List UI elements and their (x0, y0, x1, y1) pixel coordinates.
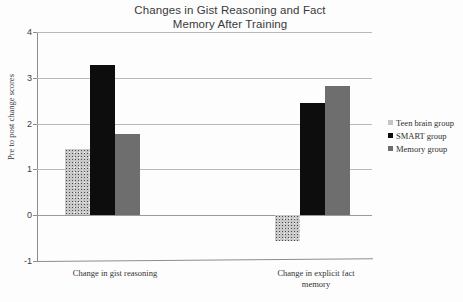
gridline-0 (37, 215, 372, 216)
x-axis-label-gist-reasoning: Change in gist reasoning (40, 268, 190, 279)
y-tick-label-4: 4 (10, 27, 32, 37)
chart-figure: Changes in Gist Reasoning and Fact Memor… (0, 0, 463, 302)
x-axis-line (37, 258, 373, 262)
legend-swatch-icon (388, 120, 393, 125)
gridline-3 (37, 78, 372, 79)
bar-teen-brain-group-1 (275, 215, 300, 241)
y-tick-label--1: -1 (10, 256, 32, 266)
y-axis-line (37, 32, 38, 261)
legend-swatch-icon (388, 146, 393, 151)
y-tick-label-0: 0 (10, 210, 32, 220)
y-tick-0 (33, 215, 37, 216)
legend-label: Memory group (396, 144, 447, 154)
legend-label: SMART group (396, 131, 447, 141)
gridline-4 (37, 32, 372, 33)
y-tick-4 (33, 32, 37, 33)
x-axis-label-line-1: Change in explicit fact (252, 268, 380, 279)
bar-smart-group-0 (90, 65, 115, 215)
legend-item-teen-brain-group: Teen brain group (388, 116, 463, 129)
y-tick-label-3: 3 (10, 73, 32, 83)
x-axis-label-line-2: memory (252, 279, 380, 290)
chart-title-line-2: Memory After Training (95, 17, 365, 31)
y-tick-label-2: 2 (10, 119, 32, 129)
y-tick-label-1: 1 (10, 164, 32, 174)
y-tick-2 (33, 124, 37, 125)
y-axis-tick-labels: 43210-1 (5, 0, 32, 302)
x-axis-label-explicit-fact-memory: Change in explicit fact memory (252, 268, 380, 290)
bar-memory-group-1 (325, 86, 350, 216)
x-axis-label-line-1: Change in gist reasoning (40, 268, 190, 279)
y-tick-3 (33, 78, 37, 79)
chart-title: Changes in Gist Reasoning and Fact Memor… (95, 3, 365, 31)
chart-title-line-1: Changes in Gist Reasoning and Fact (95, 3, 365, 17)
bar-smart-group-1 (300, 103, 325, 215)
legend-swatch-icon (388, 133, 393, 138)
legend-item-memory-group: Memory group (388, 142, 463, 155)
chart-legend: Teen brain group SMART group Memory grou… (388, 116, 463, 155)
legend-label: Teen brain group (396, 118, 454, 128)
y-tick-1 (33, 169, 37, 170)
bar-memory-group-0 (115, 134, 140, 216)
bar-teen-brain-group-0 (65, 149, 90, 215)
legend-item-smart-group: SMART group (388, 129, 463, 142)
